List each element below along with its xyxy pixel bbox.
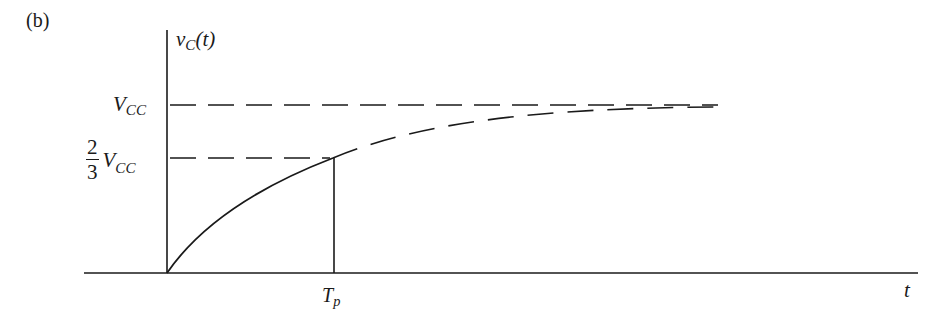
y-axis-label-main: v: [176, 27, 185, 51]
tp-label-sub: p: [333, 293, 340, 309]
y-axis-label: vC(t): [176, 29, 215, 53]
two-thirds-vcc-label: 2 3 VCC: [86, 137, 135, 183]
tp-label-main: T: [322, 284, 333, 306]
charging-diagram: (b) vC(t) VCC 2 3 VCC Tp t: [0, 0, 932, 313]
two-thirds-vcc-sub: CC: [115, 160, 135, 176]
tp-label: Tp: [322, 285, 340, 308]
charging-curve-solid: [167, 158, 333, 273]
charging-curve-dashed: [333, 107, 718, 158]
vcc-label: VCC: [113, 94, 146, 118]
two-thirds-vcc-main: V: [103, 148, 116, 172]
y-axis-label-sub: C: [185, 37, 195, 53]
vcc-label-main: V: [113, 92, 126, 116]
fraction-two-thirds: 2 3: [86, 137, 99, 183]
fraction-numerator: 2: [86, 137, 99, 160]
vcc-label-sub: CC: [126, 102, 146, 118]
fraction-denominator: 3: [87, 160, 98, 183]
x-axis-label: t: [904, 280, 910, 301]
y-axis-label-arg: (t): [195, 27, 215, 51]
diagram-canvas: [0, 0, 932, 313]
panel-label: (b): [26, 10, 49, 30]
